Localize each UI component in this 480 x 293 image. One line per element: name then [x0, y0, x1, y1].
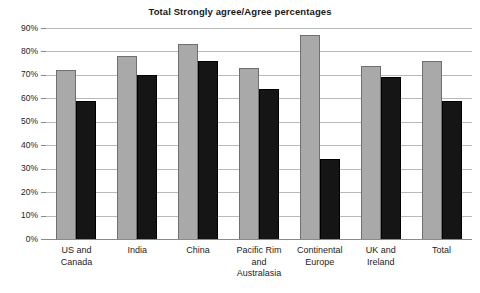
y-tick-label-90: 90%: [4, 24, 38, 33]
bar: [361, 66, 381, 239]
bar: [320, 159, 340, 239]
bar-chart: Total Strongly agree/Agree percentages 0…: [0, 0, 480, 293]
bar-group: [107, 28, 168, 239]
y-tick-label-10: 10%: [4, 211, 38, 220]
bar: [422, 61, 442, 239]
bar-group: [350, 28, 411, 239]
chart-title: Total Strongly agree/Agree percentages: [0, 6, 480, 17]
y-tick-label-60: 60%: [4, 94, 38, 103]
x-category-label-line: Ireland: [344, 257, 417, 269]
plot-area: [46, 28, 472, 239]
y-tick-label-80: 80%: [4, 47, 38, 56]
x-category-label: Total: [405, 245, 478, 257]
bar: [117, 56, 137, 239]
bar-group: [46, 28, 107, 239]
bar: [259, 89, 279, 239]
y-tick-label-20: 20%: [4, 188, 38, 197]
bar-group: [411, 28, 472, 239]
y-tick-label-40: 40%: [4, 141, 38, 150]
y-tick-label-50: 50%: [4, 117, 38, 126]
bar: [76, 101, 96, 239]
bar: [56, 70, 76, 239]
y-tick-label-70: 70%: [4, 70, 38, 79]
bar: [442, 101, 462, 239]
y-tick-label-30: 30%: [4, 164, 38, 173]
y-tick-label-0: 0%: [4, 235, 38, 244]
bar-group: [289, 28, 350, 239]
bar: [198, 61, 218, 239]
x-category-label-line: Total: [405, 245, 478, 257]
x-category-label-line: Australasia: [223, 268, 296, 280]
bar-group: [168, 28, 229, 239]
bar: [137, 75, 157, 239]
bar-group: [229, 28, 290, 239]
bar: [300, 35, 320, 239]
bar: [178, 44, 198, 239]
bar: [239, 68, 259, 239]
gridline-0: [46, 239, 472, 240]
x-category-label-line: Canada: [40, 257, 113, 269]
bar: [381, 77, 401, 239]
